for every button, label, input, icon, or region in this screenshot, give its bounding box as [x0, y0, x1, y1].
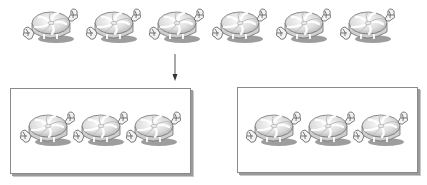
wrapped-candy-icon	[125, 111, 181, 147]
wrapped-candy-icon	[148, 8, 204, 44]
group-box-2	[237, 87, 418, 173]
wrapped-candy-icon	[352, 111, 408, 147]
wrapped-candy-icon	[85, 8, 141, 44]
group-box-1	[10, 88, 191, 174]
wrapped-candy-icon	[22, 8, 78, 44]
wrapped-candy-icon	[339, 8, 395, 44]
wrapped-candy-icon	[19, 111, 75, 147]
wrapped-candy-icon	[245, 111, 301, 147]
wrapped-candy-icon	[211, 8, 267, 44]
wrapped-candy-icon	[72, 111, 128, 147]
down-arrow-icon	[170, 54, 180, 82]
wrapped-candy-icon	[299, 111, 355, 147]
wrapped-candy-icon	[275, 8, 331, 44]
